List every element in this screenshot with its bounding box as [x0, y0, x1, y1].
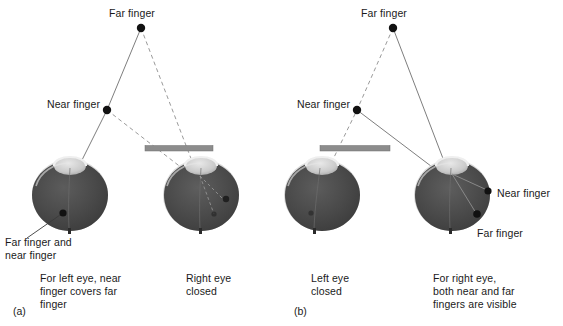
- far-finger-label-a: Far finger: [109, 7, 155, 20]
- retinal-image-dot-a: [59, 209, 66, 216]
- near-finger-dot-b: [353, 106, 361, 114]
- near-finger-dot-a: [103, 106, 111, 114]
- panel-a-dashed-rays: [107, 28, 200, 182]
- near-finger-label-a: Near finger: [47, 98, 100, 111]
- panel-b-solid-rays: [357, 28, 452, 182]
- far-finger-dot-a: [137, 24, 145, 32]
- panel-letter-b: (b): [294, 305, 307, 317]
- retinal-image-dot-near-b: [484, 187, 491, 194]
- retinal-image-dot-far-b: [473, 210, 481, 218]
- right-eye-caption-a-line1: Right eye: [186, 272, 231, 285]
- left-eye-caption-b-line1: Left eye: [311, 272, 349, 285]
- occluder-bar-b: [320, 146, 390, 152]
- panel-letter-a: (a): [13, 305, 26, 317]
- stereo-vision-figure: Far finger Near finger Far finger and ne…: [0, 0, 563, 326]
- left-eye-a: [27, 157, 108, 238]
- left-eye-b: [284, 157, 360, 234]
- right-eye-b: [414, 157, 492, 234]
- retinal-far-finger-label-b: Far finger: [477, 227, 523, 240]
- retinal-near-finger-label-b: Near finger: [497, 187, 550, 200]
- far-finger-dot-b: [389, 24, 397, 32]
- left-eye-caption-a-line3: finger: [40, 298, 67, 311]
- retinal-image-label-a-line2: near finger: [5, 249, 56, 262]
- retinal-image-label-a-line1: Far finger and: [5, 236, 72, 249]
- right-eye-a: [163, 157, 239, 234]
- near-finger-label-b: Near finger: [297, 98, 350, 111]
- left-eye-caption-b-line2: closed: [311, 285, 342, 298]
- right-eye-caption-b-line3: fingers are visible: [433, 298, 517, 311]
- left-eye-caption-a-line2: finger covers far: [40, 285, 117, 298]
- right-eye-caption-b-line1: For right eye,: [433, 272, 496, 285]
- right-eye-caption-a-line2: closed: [186, 285, 217, 298]
- right-eye-caption-b-line2: both near and far: [433, 285, 515, 298]
- left-eye-caption-a-line1: For left eye, near: [40, 272, 121, 285]
- far-finger-label-b: Far finger: [361, 7, 407, 20]
- occluder-bar-a: [145, 146, 213, 152]
